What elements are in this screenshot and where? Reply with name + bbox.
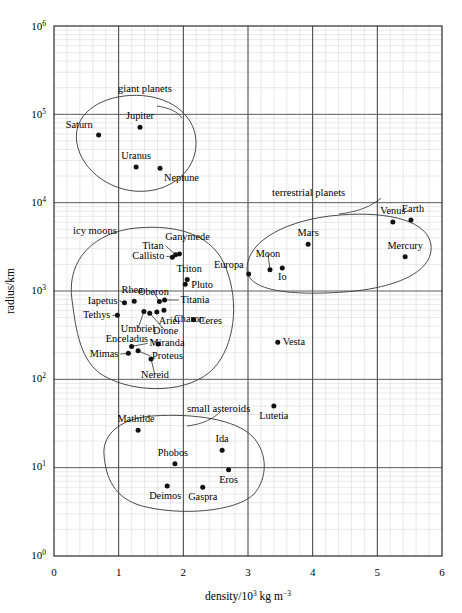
label-ceres: Ceres [199, 315, 222, 326]
scatter-chart-figure: SaturnJupiterUranusNeptuneVenusEarthMerc… [0, 0, 462, 613]
label-eros: Eros [219, 474, 238, 485]
label-ganymede: Ganymede [165, 231, 210, 242]
label-io: Io [278, 271, 287, 282]
label-proteus: Proteus [152, 350, 183, 361]
annotation-icy-moons: icy moons [73, 225, 117, 236]
data-point-earth [408, 217, 413, 222]
data-point-ida [220, 448, 225, 453]
data-point-saturn [96, 133, 101, 138]
label-mimas: Mimas [90, 348, 119, 359]
data-point-mercury [403, 254, 408, 259]
label-neptune: Neptune [164, 172, 199, 183]
x-tick-0: 0 [51, 566, 57, 578]
label-titania: Titania [181, 294, 210, 305]
label-rhea: Rhea [122, 284, 144, 295]
label-earth: Earth [402, 203, 425, 214]
data-point-io [280, 266, 285, 271]
data-point-europa [246, 271, 251, 276]
label-lutetia: Lutetia [259, 410, 289, 421]
label-deimos: Deimos [149, 490, 181, 501]
chart-background [0, 0, 462, 613]
data-point-deimos [165, 484, 170, 489]
data-point-venus [390, 219, 395, 224]
data-point-proteus [136, 348, 141, 353]
data-point-oberon [157, 299, 162, 304]
data-point-mars [306, 242, 311, 247]
label-mathilde: Mathilde [117, 413, 155, 424]
data-point-uranus [134, 164, 139, 169]
data-point-rhea [132, 299, 137, 304]
label-callisto: Callisto [132, 250, 164, 261]
x-tick-2: 2 [181, 566, 187, 578]
data-point-pluto [183, 282, 188, 287]
label-phobos: Phobos [158, 447, 188, 458]
data-point-vesta [275, 340, 280, 345]
data-point-gaspra [200, 485, 205, 490]
annotation-terrestrial-planets: terrestrial planets [272, 187, 345, 198]
label-miranda: Miranda [150, 337, 185, 348]
data-point-phobos [172, 461, 177, 466]
label-uranus: Uranus [121, 150, 151, 161]
y-axis-title: radius/km [4, 268, 16, 314]
annotation-giant-planets: giant planets [118, 83, 172, 94]
x-axis-title: density/103 kg m−3 [205, 589, 291, 603]
data-point-lutetia [271, 403, 276, 408]
label-jupiter: Jupiter [126, 110, 155, 121]
label-mars: Mars [298, 227, 319, 238]
data-point-mathilde [136, 428, 141, 433]
label-mercury: Mercury [387, 240, 423, 251]
label-vesta: Vesta [283, 336, 306, 347]
label-pluto: Pluto [191, 279, 213, 290]
label-ida: Ida [216, 433, 230, 444]
label-triton: Triton [177, 263, 202, 274]
x-tick-1: 1 [116, 566, 122, 578]
x-tick-3: 3 [245, 566, 251, 578]
data-point-ariel [154, 309, 159, 314]
data-point-eros [226, 467, 231, 472]
label-tethys: Tethys [83, 309, 110, 320]
data-point-neptune [158, 166, 163, 171]
x-tick-6: 6 [439, 566, 445, 578]
label-iapetus: Iapetus [88, 295, 118, 306]
label-europa: Europa [214, 259, 244, 270]
label-dione: Dione [153, 325, 179, 336]
data-point-charon [161, 308, 166, 313]
x-tick-4: 4 [310, 566, 316, 578]
data-point-umbriel [141, 309, 146, 314]
plot-svg: SaturnJupiterUranusNeptuneVenusEarthMerc… [0, 0, 462, 613]
label-moon: Moon [256, 248, 281, 259]
label-nereid: Nereid [141, 369, 170, 380]
x-tick-5: 5 [375, 566, 381, 578]
label-enceladus: Enceladus [106, 333, 148, 344]
label-titan: Titan [142, 240, 163, 251]
label-gaspra: Gaspra [188, 491, 218, 502]
label-saturn: Saturn [66, 119, 93, 130]
data-point-jupiter [138, 125, 143, 130]
annotation-small-asteroids: small asteroids [187, 403, 250, 414]
data-point-triton [185, 277, 190, 282]
